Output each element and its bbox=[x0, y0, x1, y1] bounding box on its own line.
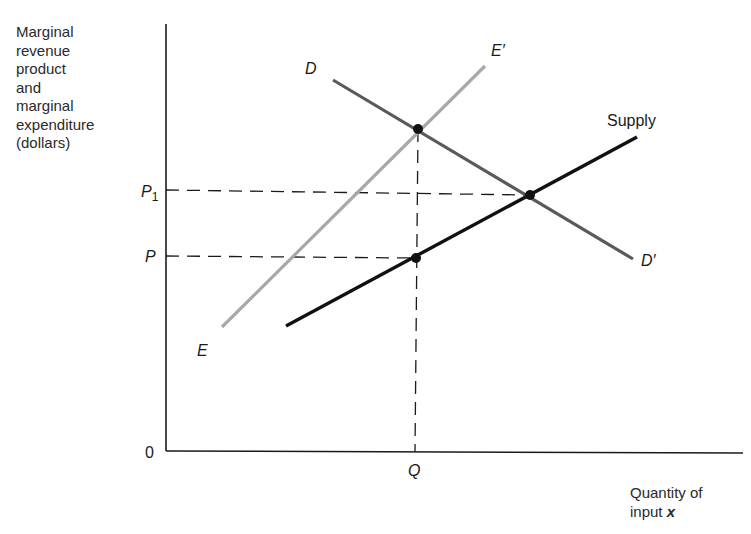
point-dd-ee-intersection bbox=[413, 124, 423, 134]
d-label: D bbox=[305, 60, 317, 77]
supply-label: Supply bbox=[607, 112, 656, 129]
origin-label: 0 bbox=[145, 444, 154, 461]
d-prime-label: D′ bbox=[641, 252, 657, 269]
p1-label: P1 bbox=[141, 183, 159, 204]
e-label: E bbox=[197, 342, 208, 359]
q-label: Q bbox=[408, 462, 420, 479]
point-supply-dd-intersection bbox=[525, 190, 535, 200]
p1-guide-line bbox=[166, 190, 530, 195]
x-axis bbox=[166, 451, 743, 453]
p-label: P bbox=[145, 248, 156, 265]
point-supply-at-q bbox=[411, 253, 421, 263]
economics-diagram: 0 P1 P Q E E′ D D′ Supply bbox=[0, 0, 751, 534]
e-prime-label: E′ bbox=[491, 42, 506, 59]
q-guide-line bbox=[415, 129, 418, 452]
demand-mrp-line-dd bbox=[333, 80, 633, 259]
